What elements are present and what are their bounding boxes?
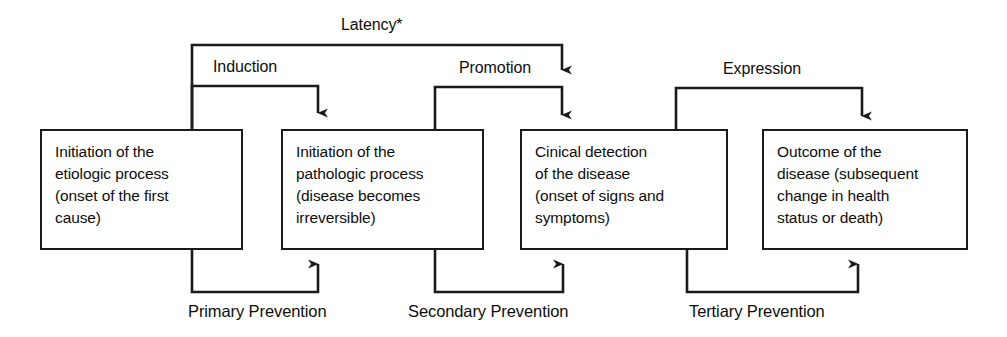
tertiary-prevention-connector xyxy=(687,250,858,292)
promotion-connector xyxy=(435,87,562,129)
stage-box-outcome: Outcome of the disease (subsequent chang… xyxy=(762,129,968,250)
induction-connector xyxy=(192,86,318,129)
label-induction: Induction xyxy=(213,58,277,76)
primary-prevention-connector xyxy=(192,250,318,292)
natural-history-of-disease-diagram: Latency* Induction Promotion Expression … xyxy=(0,0,1007,337)
label-primary-prevention: Primary Prevention xyxy=(188,302,327,321)
secondary-prevention-connector xyxy=(435,250,563,292)
label-expression: Expression xyxy=(723,60,801,78)
stage-box-etiologic: Initiation of the etiologic process (ons… xyxy=(40,129,243,250)
expression-connector xyxy=(676,88,862,129)
label-tertiary-prevention: Tertiary Prevention xyxy=(689,302,825,321)
label-promotion: Promotion xyxy=(459,59,531,77)
label-secondary-prevention: Secondary Prevention xyxy=(408,302,568,321)
stage-box-pathologic: Initiation of the pathologic process (di… xyxy=(281,129,484,250)
label-latency: Latency* xyxy=(341,16,402,34)
stage-box-clinical-detection: Cinical detection of the disease (onset … xyxy=(520,129,728,250)
